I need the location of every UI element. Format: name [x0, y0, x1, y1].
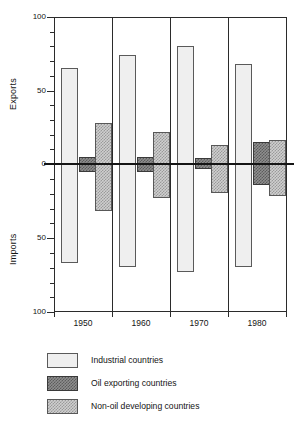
y-major-tick: [47, 312, 54, 313]
x-tick-label-1950: 1950: [63, 319, 103, 328]
y-axis-title-imports: Imports: [8, 234, 18, 265]
bar-1970-industrial-imports: [177, 164, 194, 272]
y-tick-label-0: 0: [24, 160, 46, 168]
legend-label-nonoil: Non-oil developing countries: [91, 401, 199, 411]
x-axis-tick: [170, 312, 171, 317]
legend-label-oil: Oil exporting countries: [91, 378, 177, 388]
bar-1960-nonoil-exports: [153, 132, 170, 164]
bar-1980-industrial-imports: [235, 164, 252, 267]
bar-1960-oil-imports: [137, 164, 154, 172]
legend-item-oil: Oil exporting countries: [47, 375, 277, 398]
bar-1960-industrial-exports: [119, 55, 136, 164]
y-tick-label-100-bot: 100: [24, 308, 46, 316]
legend-swatch-industrial-icon: [47, 353, 78, 368]
y-major-tick: [47, 91, 54, 92]
bar-1960-nonoil-imports: [153, 164, 170, 198]
legend-swatch-nonoil-icon: [47, 399, 78, 414]
x-axis-tick: [112, 312, 113, 317]
x-tick-label-1980: 1980: [237, 319, 277, 328]
y-tick-label-50-bot: 50: [24, 234, 46, 242]
bar-chart-figure: Exports Imports 100 50 0 50 100: [0, 0, 301, 423]
x-tick-label-1970: 1970: [179, 319, 219, 328]
x-axis-tick: [286, 312, 287, 317]
legend-item-nonoil: Non-oil developing countries: [47, 398, 277, 421]
bar-1950-oil-imports: [79, 164, 96, 172]
legend-swatch-oil-icon: [47, 376, 78, 391]
bar-1980-nonoil-exports: [269, 140, 286, 164]
bar-1960-industrial-imports: [119, 164, 136, 267]
bar-1980-nonoil-imports: [269, 164, 286, 196]
y-tick-label-50-top: 50: [24, 87, 46, 95]
y-tick-label-100-top: 100: [24, 13, 46, 21]
x-axis-tick: [228, 312, 229, 317]
bar-1980-oil-exports: [253, 142, 270, 164]
y-major-tick: [47, 17, 54, 18]
zero-baseline: [44, 163, 294, 165]
y-major-tick: [47, 238, 54, 239]
bar-1950-nonoil-exports: [95, 123, 112, 164]
bar-1980-oil-imports: [253, 164, 270, 185]
x-axis-tick: [54, 312, 55, 317]
legend-item-industrial: Industrial countries: [47, 352, 277, 375]
bar-1950-industrial-imports: [61, 164, 78, 263]
bar-1950-industrial-exports: [61, 68, 78, 164]
bar-1970-industrial-exports: [177, 46, 194, 164]
chart-legend: Industrial countries Oil exporting count…: [47, 352, 277, 421]
bar-1980-industrial-exports: [235, 64, 252, 164]
x-tick-label-1960: 1960: [121, 319, 161, 328]
bar-1970-nonoil-imports: [211, 164, 228, 193]
bar-1970-nonoil-exports: [211, 145, 228, 164]
y-axis-title-exports: Exports: [8, 78, 18, 110]
bar-1950-nonoil-imports: [95, 164, 112, 211]
legend-label-industrial: Industrial countries: [91, 355, 163, 365]
